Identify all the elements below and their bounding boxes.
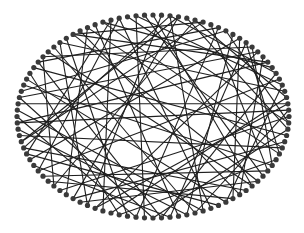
graph-node xyxy=(51,183,56,188)
graph-node xyxy=(230,196,235,201)
graph-node xyxy=(71,32,76,37)
graph-node xyxy=(21,83,26,88)
graph-node xyxy=(64,192,69,197)
graph-node xyxy=(71,196,76,201)
graph-node xyxy=(85,25,90,30)
graph-node xyxy=(244,40,249,45)
graph-node xyxy=(250,44,255,49)
graph-node xyxy=(78,200,83,205)
graph-node xyxy=(24,77,29,82)
graph-node xyxy=(17,133,22,138)
graph-node xyxy=(280,145,285,150)
graph-node xyxy=(192,210,197,215)
graph-node xyxy=(125,214,130,219)
graph-node xyxy=(201,20,206,25)
graph-node xyxy=(31,163,36,168)
graph-node xyxy=(184,16,189,21)
graph-node xyxy=(24,151,29,156)
graph-node xyxy=(46,179,51,184)
graph-node xyxy=(117,212,122,217)
graph-node xyxy=(284,133,289,138)
graph-node xyxy=(167,215,172,220)
graph-node xyxy=(208,206,213,211)
graph-node xyxy=(277,151,282,156)
graph-node xyxy=(100,208,105,213)
graph-node xyxy=(51,44,56,49)
graph-node xyxy=(85,203,90,208)
graph-node xyxy=(286,108,291,113)
graph-node xyxy=(270,163,275,168)
graph-node xyxy=(142,13,147,18)
graph-node xyxy=(284,95,289,100)
graph-node xyxy=(125,14,130,19)
graph-node xyxy=(100,20,105,25)
graph-node xyxy=(93,206,98,211)
graph-node xyxy=(19,139,24,144)
graph-node xyxy=(40,54,45,59)
graph-node xyxy=(46,49,51,54)
graph-node xyxy=(216,25,221,30)
graph-node xyxy=(244,188,249,193)
graph-node xyxy=(282,139,287,144)
graph-node xyxy=(223,200,228,205)
graph-edge xyxy=(38,18,119,171)
graph-node xyxy=(201,208,206,213)
graph-node xyxy=(176,214,181,219)
graph-node xyxy=(277,77,282,82)
graph-node xyxy=(192,17,197,22)
graph-node xyxy=(57,40,62,45)
graph-node xyxy=(250,183,255,188)
graph-node xyxy=(16,127,21,132)
graph-node xyxy=(274,71,279,76)
graph-node xyxy=(270,65,275,70)
graph-node xyxy=(237,36,242,41)
network-graph xyxy=(0,0,304,233)
graph-node xyxy=(223,28,228,33)
graph-node xyxy=(78,28,83,33)
graph-node xyxy=(17,95,22,100)
graph-node xyxy=(16,101,21,106)
graph-node xyxy=(108,210,113,215)
graph-node xyxy=(286,114,291,119)
graph-node xyxy=(285,101,290,106)
graph-node xyxy=(142,215,147,220)
graph-node xyxy=(260,174,265,179)
graph-node xyxy=(93,22,98,27)
graph-node xyxy=(282,89,287,94)
graph-node xyxy=(36,168,41,173)
graph-node xyxy=(286,120,291,125)
graph-node xyxy=(255,49,260,54)
graph-node xyxy=(27,157,32,162)
graph-node xyxy=(184,212,189,217)
graph-node xyxy=(15,120,20,125)
graph-node xyxy=(274,157,279,162)
graph-node xyxy=(237,192,242,197)
graph-node xyxy=(14,114,19,119)
graph-node xyxy=(117,16,122,21)
graph-node xyxy=(280,83,285,88)
graph-node xyxy=(285,127,290,132)
graph-node xyxy=(265,168,270,173)
graph-node xyxy=(159,215,164,220)
graph-node xyxy=(176,14,181,19)
graph-node xyxy=(208,22,213,27)
graph-node xyxy=(150,215,155,220)
graph-node xyxy=(167,13,172,18)
graph-node xyxy=(150,12,155,17)
graph-node xyxy=(159,13,164,18)
graph-node xyxy=(57,188,62,193)
graph-node xyxy=(40,174,45,179)
graph-node xyxy=(230,32,235,37)
graph-node xyxy=(15,108,20,113)
graph-node xyxy=(265,60,270,65)
graph-node xyxy=(133,215,138,220)
graph-edge xyxy=(19,136,282,148)
graph-node xyxy=(133,13,138,18)
graph-node xyxy=(21,145,26,150)
graph-node xyxy=(36,60,41,65)
graph-node xyxy=(27,71,32,76)
graph-node xyxy=(31,65,36,70)
graph-node xyxy=(64,36,69,41)
graph-edge xyxy=(54,20,195,186)
graph-node xyxy=(19,89,24,94)
